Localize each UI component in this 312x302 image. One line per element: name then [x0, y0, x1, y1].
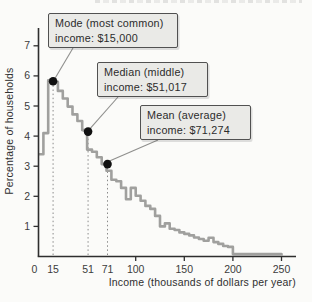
y-axis-label: Percentage of households — [3, 31, 15, 231]
median-dot — [84, 127, 93, 136]
mean-callout: Mean (average) income: $71,274 — [140, 105, 251, 140]
median-callout-value: income: $51,017 — [104, 80, 201, 95]
y-tick-label-3: 3 — [24, 160, 30, 172]
income-distribution-chart: 12345670155171100150200250 Percentage of… — [0, 0, 312, 302]
y-tick-label-7: 7 — [24, 39, 30, 51]
x-tick-label-250: 250 — [273, 263, 291, 275]
x-tick-label-0: 0 — [32, 263, 38, 275]
y-tick-label-1: 1 — [24, 220, 30, 232]
x-tick-label-200: 200 — [224, 263, 242, 275]
mode-leader-line — [55, 48, 73, 78]
y-tick-label-2: 2 — [24, 190, 30, 202]
mode-callout-title: Mode (most common) — [55, 16, 171, 31]
x-tick-label-51: 51 — [82, 263, 94, 275]
y-tick-label-4: 4 — [24, 130, 30, 142]
x-tick-label-71: 71 — [102, 263, 114, 275]
mode-callout-value: income: $15,000 — [55, 31, 171, 46]
y-tick-label-5: 5 — [24, 100, 30, 112]
median-callout: Median (middle) income: $51,017 — [97, 62, 208, 97]
median-leader-line — [90, 97, 118, 129]
x-axis-label: Income (thousands of dollars per year) — [96, 276, 296, 288]
mean-callout-title: Mean (average) — [147, 108, 244, 123]
y-tick-label-6: 6 — [24, 69, 30, 81]
mean-dot — [103, 160, 112, 169]
mode-dot — [49, 77, 58, 86]
mode-callout: Mode (most common) income: $15,000 — [48, 13, 178, 48]
x-tick-label-15: 15 — [47, 263, 59, 275]
mean-leader-line — [110, 140, 158, 161]
mean-callout-value: income: $71,274 — [147, 123, 244, 138]
x-tick-label-100: 100 — [127, 263, 145, 275]
x-tick-label-150: 150 — [176, 263, 194, 275]
median-callout-title: Median (middle) — [104, 65, 201, 80]
